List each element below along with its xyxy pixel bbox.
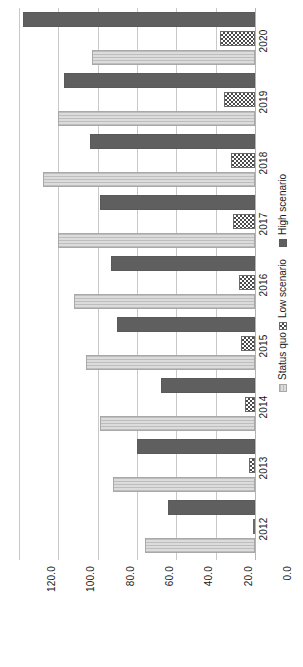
bar-low-2012 (253, 519, 255, 534)
bar-status-2014 (100, 416, 255, 431)
value-tick-100-0: 100.0 (85, 566, 96, 620)
bar-low-2017 (233, 214, 255, 229)
bar-high-2017 (100, 195, 255, 210)
bar-status-2020 (92, 50, 255, 65)
bar-high-2015 (117, 317, 255, 332)
plot-area (19, 8, 255, 560)
bar-group-2016 (19, 254, 255, 315)
bar-status-2012 (145, 538, 255, 553)
bar-status-2018 (43, 172, 255, 187)
legend-label: High scenario (278, 174, 288, 235)
bar-high-2012 (168, 500, 255, 515)
legend-label: Low scenario (278, 259, 288, 318)
bar-low-2013 (249, 458, 255, 473)
bar-group-2017 (19, 193, 255, 254)
bar-status-2013 (113, 477, 255, 492)
bar-group-2015 (19, 315, 255, 376)
category-tick-2016: 2016 (258, 259, 269, 311)
legend-swatch-low-icon (279, 322, 287, 330)
category-tick-2020: 2020 (258, 15, 269, 67)
value-tick-0-0: 0.0 (282, 566, 293, 620)
category-tick-2019: 2019 (258, 76, 269, 128)
bar-chart: Status quoLow scenarioHigh scenario 2012… (0, 0, 303, 667)
bar-status-2015 (86, 355, 255, 370)
value-tick-120-0: 120.0 (46, 566, 57, 620)
legend-entry-high[interactable]: High scenario (276, 127, 290, 247)
bar-high-2019 (64, 73, 255, 88)
bar-status-2019 (58, 111, 255, 126)
bar-low-2016 (239, 275, 255, 290)
bar-high-2013 (137, 439, 255, 454)
legend-label: Status quo (278, 332, 288, 380)
category-tick-2013: 2013 (258, 442, 269, 494)
bar-group-2012 (19, 498, 255, 559)
bar-status-2016 (74, 294, 255, 309)
bar-group-2019 (19, 71, 255, 132)
bar-group-2020 (19, 10, 255, 71)
category-tick-2018: 2018 (258, 137, 269, 189)
value-tick-60-0: 60.0 (164, 566, 175, 620)
category-tick-2012: 2012 (258, 503, 269, 555)
bar-group-2013 (19, 437, 255, 498)
value-tick-20-0: 20.0 (243, 566, 254, 620)
bar-high-2018 (90, 134, 255, 149)
legend-swatch-high-icon (279, 239, 287, 247)
bar-low-2020 (220, 31, 255, 46)
value-tick-40-0: 40.0 (203, 566, 214, 620)
value-tick-80-0: 80.0 (125, 566, 136, 620)
legend-swatch-status-icon (279, 384, 287, 392)
category-tick-2014: 2014 (258, 381, 269, 433)
bar-high-2020 (23, 12, 255, 27)
bar-high-2016 (111, 256, 255, 271)
category-tick-2015: 2015 (258, 320, 269, 372)
bar-low-2014 (245, 397, 255, 412)
category-tick-2017: 2017 (258, 198, 269, 250)
bar-status-2017 (58, 233, 255, 248)
bar-low-2019 (224, 92, 255, 107)
bar-low-2015 (241, 336, 255, 351)
bar-low-2018 (231, 153, 255, 168)
axis-line-zero (255, 8, 256, 560)
bar-high-2014 (161, 378, 255, 393)
bar-group-2014 (19, 376, 255, 437)
bar-group-2018 (19, 132, 255, 193)
